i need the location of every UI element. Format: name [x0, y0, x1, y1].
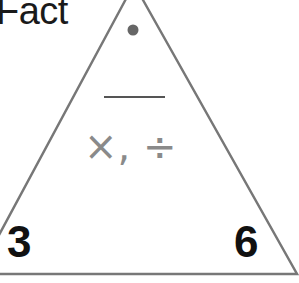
- operations-label: ×, ÷: [84, 126, 176, 166]
- bottom-left-number: 3: [7, 220, 31, 264]
- fact-triangle-worksheet: Fact ×, ÷ 3 6: [0, 0, 299, 283]
- top-dot-icon: [128, 25, 139, 36]
- bottom-right-number: 6: [234, 220, 258, 264]
- page-title: Fact: [0, 0, 68, 30]
